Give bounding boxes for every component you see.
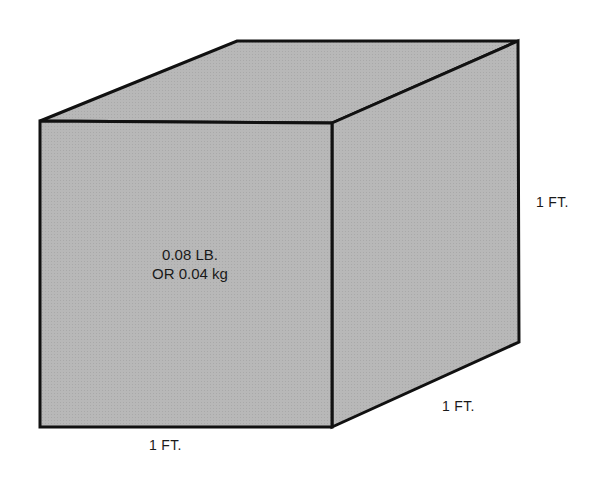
height-dimension-label: 1 FT. [536, 194, 569, 210]
mass-label: 0.08 LB. OR 0.04 kg [110, 245, 270, 283]
cube-diagram [0, 0, 606, 481]
mass-label-kg: OR 0.04 kg [110, 264, 270, 283]
mass-label-lb: 0.08 LB. [110, 245, 270, 264]
width-dimension-label: 1 FT. [149, 437, 182, 453]
depth-dimension-label: 1 FT. [442, 398, 475, 414]
